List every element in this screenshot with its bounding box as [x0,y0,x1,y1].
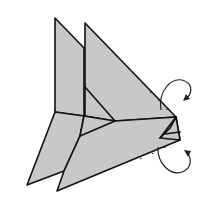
origami-figure [0,0,202,200]
origami-diagram: Origami diagram step: folded paper model… [0,0,202,200]
lower-arrowhead-icon [184,150,191,157]
left-upright-flap [55,18,84,116]
right-upright-flap [85,23,176,121]
